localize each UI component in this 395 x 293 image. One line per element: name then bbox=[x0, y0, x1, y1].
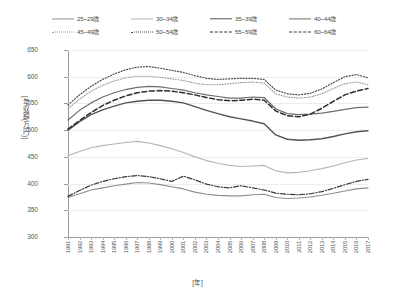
x-axis-tick-label: 2017 bbox=[365, 241, 371, 253]
x-axis-tick-label: 2007 bbox=[250, 241, 256, 253]
y-axis-tick-label: 600 bbox=[14, 73, 38, 80]
x-axis-tick-label: 2015 bbox=[342, 241, 348, 253]
x-axis-tick bbox=[91, 237, 92, 240]
legend-swatch-icon bbox=[131, 15, 153, 23]
x-axis-tick bbox=[126, 237, 127, 240]
x-axis-tick-label: 1991 bbox=[65, 241, 71, 253]
x-axis-tick-label: 1995 bbox=[111, 241, 117, 253]
x-axis-tick-label: 2001 bbox=[180, 241, 186, 253]
x-axis-tick bbox=[276, 237, 277, 240]
x-axis-tick-label: 2010 bbox=[284, 241, 290, 253]
x-axis-tick bbox=[172, 237, 173, 240]
x-axis-tick-label: 2016 bbox=[353, 241, 359, 253]
series-line-30~34歳 bbox=[68, 141, 368, 173]
x-axis-tick bbox=[68, 237, 69, 240]
legend-item-40~44歳[interactable]: 40~44歳 bbox=[289, 12, 368, 25]
x-axis-tick bbox=[241, 237, 242, 240]
x-axis-tick-label: 2013 bbox=[319, 241, 325, 253]
x-axis-tick bbox=[345, 237, 346, 240]
legend-item-55~59歳[interactable]: 55~59歳 bbox=[210, 25, 289, 38]
x-axis-tick bbox=[160, 237, 161, 240]
x-axis-title: [年] bbox=[0, 277, 395, 287]
y-axis-tick-label: 500 bbox=[14, 126, 38, 133]
x-axis-tick-label: 2003 bbox=[203, 241, 209, 253]
plot-area: 300350400450500550600650 199119921993199… bbox=[68, 50, 368, 237]
series-line-25~29歳 bbox=[68, 183, 368, 199]
y-axis-tick-label: 650 bbox=[14, 46, 38, 53]
x-axis-tick bbox=[80, 237, 81, 240]
x-axis-tick-label: 1999 bbox=[157, 241, 163, 253]
x-axis-tick-label: 2011 bbox=[296, 241, 302, 253]
legend-label: 60~64歳 bbox=[314, 27, 336, 36]
x-axis-tick-label: 2012 bbox=[307, 241, 313, 253]
x-axis-tick-label: 2002 bbox=[192, 241, 198, 253]
legend-swatch-icon bbox=[289, 15, 311, 23]
legend-item-60~64歳[interactable]: 60~64歳 bbox=[289, 25, 368, 38]
legend-label: 25~29歳 bbox=[77, 14, 99, 23]
legend-item-35~39歳[interactable]: 35~39歳 bbox=[210, 12, 289, 25]
x-axis-tick bbox=[333, 237, 334, 240]
x-axis-tick-label: 2009 bbox=[273, 241, 279, 253]
legend-label: 50~54歳 bbox=[156, 27, 178, 36]
x-axis-tick-label: 1993 bbox=[88, 241, 94, 253]
x-axis-tick bbox=[103, 237, 104, 240]
legend-item-45~49歳[interactable]: 45~49歳 bbox=[52, 25, 131, 38]
chart-legend: 25~29歳30~34歳35~39歳40~44歳45~49歳50~54歳55~5… bbox=[52, 12, 368, 38]
legend-swatch-icon bbox=[131, 28, 153, 36]
x-axis-tick bbox=[310, 237, 311, 240]
series-line-35~39歳 bbox=[68, 100, 368, 140]
x-axis-tick bbox=[137, 237, 138, 240]
legend-item-25~29歳[interactable]: 25~29歳 bbox=[52, 12, 131, 25]
x-axis-tick bbox=[218, 237, 219, 240]
legend-label: 30~34歳 bbox=[156, 14, 178, 23]
legend-label: 45~49歳 bbox=[77, 27, 99, 36]
legend-swatch-icon bbox=[210, 15, 232, 23]
y-axis-tick-label: 400 bbox=[14, 180, 38, 187]
legend-label: 40~44歳 bbox=[314, 14, 336, 23]
legend-label: 55~59歳 bbox=[235, 27, 257, 36]
x-axis-tick bbox=[356, 237, 357, 240]
x-axis-tick-label: 1997 bbox=[134, 241, 140, 253]
x-axis-tick bbox=[287, 237, 288, 240]
legend-swatch-icon bbox=[52, 28, 74, 36]
x-axis-tick-label: 2008 bbox=[261, 241, 267, 253]
x-axis-tick bbox=[322, 237, 323, 240]
x-axis-tick-label: 2004 bbox=[215, 241, 221, 253]
legend-item-50~54歳[interactable]: 50~54歳 bbox=[131, 25, 210, 38]
x-axis-tick bbox=[195, 237, 196, 240]
legend-label: 35~39歳 bbox=[235, 14, 257, 23]
x-axis-tick-label: 2005 bbox=[227, 241, 233, 253]
x-axis-tick-label: 2000 bbox=[169, 241, 175, 253]
legend-swatch-icon bbox=[210, 28, 232, 36]
x-axis-tick-label: 1996 bbox=[123, 241, 129, 253]
x-axis-tick-label: 1998 bbox=[146, 241, 152, 253]
x-axis-tick-label: 2006 bbox=[238, 241, 244, 253]
legend-item-30~34歳[interactable]: 30~34歳 bbox=[131, 12, 210, 25]
legend-swatch-icon bbox=[289, 28, 311, 36]
x-axis-tick bbox=[299, 237, 300, 240]
y-axis-tick-label: 450 bbox=[14, 153, 38, 160]
x-axis-tick-label: 1992 bbox=[77, 241, 83, 253]
series-line-40~44歳 bbox=[68, 86, 368, 120]
series-line-55~59歳 bbox=[68, 88, 368, 129]
x-axis-tick bbox=[264, 237, 265, 240]
legend-swatch-icon bbox=[52, 15, 74, 23]
x-axis-tick bbox=[368, 237, 369, 240]
line-chart: 25~29歳30~34歳35~39歳40~44歳45~49歳50~54歳55~5… bbox=[0, 0, 395, 293]
x-axis-tick bbox=[253, 237, 254, 240]
x-axis-tick bbox=[183, 237, 184, 240]
x-axis-tick bbox=[114, 237, 115, 240]
x-axis-tick bbox=[230, 237, 231, 240]
x-axis-tick bbox=[149, 237, 150, 240]
x-axis-tick-label: 2014 bbox=[330, 241, 336, 253]
y-axis-tick-label: 300 bbox=[14, 233, 38, 240]
x-axis-tick bbox=[206, 237, 207, 240]
y-axis-tick-label: 550 bbox=[14, 99, 38, 106]
series-line-45~49歳 bbox=[68, 76, 368, 109]
x-axis-tick-label: 1994 bbox=[100, 241, 106, 253]
series-lines bbox=[68, 50, 368, 237]
y-axis-tick-label: 350 bbox=[14, 206, 38, 213]
